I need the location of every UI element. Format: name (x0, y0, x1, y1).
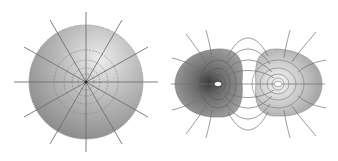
negative-charge (214, 81, 222, 87)
diagram-canvas (0, 0, 338, 161)
point-charge-panel (14, 12, 158, 152)
dipole-panel (171, 30, 326, 138)
negative-charge-lobe (175, 49, 242, 117)
charge-point (85, 81, 88, 84)
dipole-field-lines (171, 30, 326, 138)
positive-charge (274, 81, 282, 87)
